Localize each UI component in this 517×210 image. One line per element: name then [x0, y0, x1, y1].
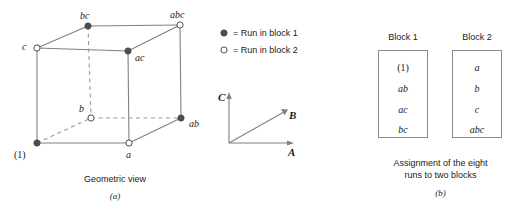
vertex-label-one: (1): [14, 150, 26, 160]
edge-ab-abc: [180, 25, 181, 118]
vertex-label-b: b: [79, 104, 84, 114]
block-2-box: a b c abc: [452, 50, 502, 138]
vertex-c-marker: [34, 45, 40, 51]
edge-a-ac: [128, 51, 129, 143]
block-2-run-1: b: [453, 84, 501, 94]
vertex-ab-marker: [178, 115, 184, 121]
edge-bc-b-hidden: [88, 26, 91, 118]
legend-item-block1: = Run in block 1: [233, 29, 298, 38]
vertex-b-marker: [88, 115, 94, 121]
block-1-run-0: (1): [379, 63, 427, 73]
axis-label-c: C: [218, 92, 225, 103]
axis-label-a: A: [288, 147, 295, 158]
panel-a-caption: Geometric view: [60, 173, 170, 185]
edge-ac-abc: [128, 25, 180, 51]
vertex-label-a: a: [126, 150, 131, 160]
panel-a-label: (a): [60, 191, 170, 201]
block-2-run-2: c: [453, 105, 501, 115]
legend-filled-marker: [221, 30, 227, 36]
edge-c-bc: [37, 26, 88, 48]
edge-one-b-hidden: [37, 118, 91, 143]
block-2-run-3: abc: [453, 125, 501, 135]
cube-edges: [37, 25, 181, 143]
vertex-abc-marker: [177, 22, 183, 28]
legend-item-block2: = Run in block 2: [233, 46, 298, 55]
factorial-blocking-figure: (1) a b ab c ac bc abc Geometric view (a…: [0, 0, 517, 210]
vertex-label-c: c: [22, 42, 26, 52]
axes-arrowheads: [226, 92, 294, 146]
panel-b-label: (b): [368, 188, 513, 198]
block-2-run-0: a: [453, 63, 501, 73]
axis-b-arrowhead: [281, 109, 288, 115]
panel-b-caption-line1: Assignment of the eight: [368, 157, 513, 169]
legend-markers: [221, 30, 227, 53]
cube-hidden-edges: [37, 26, 181, 143]
vertex-label-bc: bc: [80, 11, 89, 21]
vertex-label-abc: abc: [170, 10, 184, 20]
legend-open-marker: [221, 47, 227, 53]
edge-a-ab: [129, 118, 181, 143]
edge-c-ac: [37, 48, 128, 51]
edge-bc-abc: [88, 25, 180, 26]
vertex-ac-marker: [125, 48, 131, 54]
axes-indicator: [229, 96, 290, 143]
panel-b-caption-line2: runs to two blocks: [368, 169, 513, 181]
axis-label-b: B: [289, 110, 296, 121]
vertex-bc-marker: [85, 23, 91, 29]
axis-a-arrowhead: [287, 140, 294, 145]
block-1-title: Block 1: [378, 32, 428, 42]
vertex-a-marker: [126, 140, 132, 146]
vertex-label-ac: ac: [135, 53, 144, 63]
axis-c-arrowhead: [226, 92, 231, 99]
block-1-run-3: bc: [379, 125, 427, 135]
axis-b-line: [229, 112, 284, 143]
vertex-one-marker: [34, 140, 40, 146]
block-1-run-2: ac: [379, 105, 427, 115]
block-1-run-1: ab: [379, 84, 427, 94]
block-1-box: (1) ab ac bc: [378, 50, 428, 138]
vertex-label-ab: ab: [189, 119, 199, 129]
block-2-title: Block 2: [452, 32, 502, 42]
